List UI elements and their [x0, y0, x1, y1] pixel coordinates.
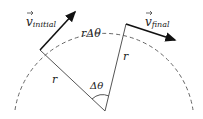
- v-final-label: vfinal: [145, 15, 170, 29]
- dashed-circle-arc: [15, 33, 193, 110]
- angle-label: Δθ: [89, 80, 103, 91]
- radius-right-line: [105, 24, 126, 111]
- circular-motion-diagram: vinitial vfinal rΔθ r r Δθ: [0, 0, 203, 119]
- angle-arc: [92, 95, 109, 99]
- radius-left-label: r: [52, 73, 58, 86]
- v-initial-label: vinitial: [26, 15, 57, 29]
- radius-right-label: r: [123, 50, 129, 63]
- v-initial-arrow: [40, 12, 75, 50]
- arc-length-label: rΔθ: [81, 27, 101, 40]
